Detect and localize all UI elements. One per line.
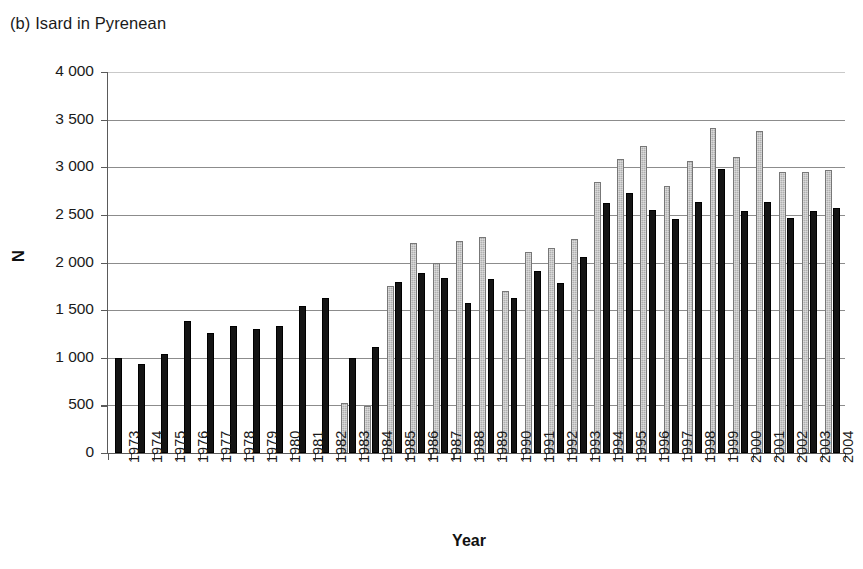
y-axis-tick-label: 500 xyxy=(0,395,100,413)
bar-gray xyxy=(456,241,463,453)
y-axis-tick-mark xyxy=(101,405,108,406)
x-axis-tick-mark xyxy=(108,453,109,460)
x-axis-tick-label: 2003 xyxy=(817,431,833,463)
y-axis-tick-label: 2 000 xyxy=(0,253,100,271)
x-axis-tick-label: 1994 xyxy=(610,431,626,463)
bar-gray xyxy=(571,239,578,453)
y-axis-tick-label: 1 500 xyxy=(0,300,100,318)
bar-black xyxy=(695,202,702,453)
x-axis-tick-label: 1975 xyxy=(172,431,188,463)
bar-gray xyxy=(433,263,440,454)
bar-gray xyxy=(825,170,832,453)
x-axis-tick-label: 1988 xyxy=(471,431,487,463)
y-axis-tick-label: 3 500 xyxy=(0,110,100,128)
bar-black xyxy=(488,279,495,453)
y-axis-tick-label: 0 xyxy=(0,443,100,461)
bar-gray xyxy=(733,157,740,453)
bar-black xyxy=(511,298,518,453)
x-axis-tick-label: 1977 xyxy=(218,431,234,463)
x-axis-tick-label: 1999 xyxy=(725,431,741,463)
x-axis-tick-label: 1998 xyxy=(702,431,718,463)
y-axis-tick-mark xyxy=(101,310,108,311)
bar-black xyxy=(764,202,771,453)
y-axis-tick-mark xyxy=(101,358,108,359)
bar-black xyxy=(395,282,402,453)
y-axis-tick-mark xyxy=(101,72,108,73)
bar-gray xyxy=(687,161,694,453)
bar-black xyxy=(718,169,725,453)
x-axis-tick-label: 1983 xyxy=(356,431,372,463)
x-axis-tick-label: 2000 xyxy=(748,431,764,463)
y-axis-tick-mark xyxy=(101,167,108,168)
bar-gray xyxy=(802,172,809,453)
bar-black xyxy=(741,211,748,453)
x-axis-tick-label: 1986 xyxy=(425,431,441,463)
bar-black xyxy=(418,273,425,453)
bar-gray xyxy=(640,146,647,453)
x-axis-tick-label: 1979 xyxy=(264,431,280,463)
bar-gray xyxy=(779,172,786,453)
y-axis-tick-label: 4 000 xyxy=(0,62,100,80)
bar-gray xyxy=(664,186,671,453)
bar-black xyxy=(626,193,633,453)
x-axis-tick-label: 1984 xyxy=(379,431,395,463)
bar-gray xyxy=(756,131,763,453)
y-axis-tick-mark xyxy=(101,263,108,264)
bar-group xyxy=(108,72,845,453)
x-axis-tick-label: 1976 xyxy=(195,431,211,463)
bar-black xyxy=(603,203,610,453)
x-axis-tick-label: 1990 xyxy=(518,431,534,463)
bar-black xyxy=(787,218,794,453)
y-axis-tick-label: 2 500 xyxy=(0,205,100,223)
y-axis-tick-label: 3 000 xyxy=(0,157,100,175)
x-axis-tick-label: 1974 xyxy=(149,431,165,463)
y-axis-tick-mark xyxy=(101,215,108,216)
bar-gray xyxy=(502,291,509,453)
y-axis-tick-labels: 05001 0001 5002 0002 5003 0003 5004 000 xyxy=(0,0,100,569)
bar-black xyxy=(833,208,840,453)
x-axis-tick-label: 1978 xyxy=(241,431,257,463)
bar-gray xyxy=(410,243,417,453)
bar-gray xyxy=(710,128,717,453)
bar-black xyxy=(810,211,817,453)
bar-gray xyxy=(525,252,532,453)
bar-black xyxy=(649,210,656,453)
x-axis-tick-label: 2002 xyxy=(794,431,810,463)
y-axis-tick-mark xyxy=(101,453,108,454)
bar-black xyxy=(672,219,679,453)
x-axis-tick-label: 1985 xyxy=(402,431,418,463)
x-axis-tick-label: 1989 xyxy=(494,431,510,463)
bar-black xyxy=(534,271,541,453)
y-axis-tick-mark xyxy=(101,120,108,121)
bar-gray xyxy=(479,237,486,453)
x-axis-tick-label: 1993 xyxy=(587,431,603,463)
bar-black xyxy=(557,283,564,454)
bar-black xyxy=(580,257,587,453)
bar-black xyxy=(441,278,448,453)
x-axis-tick-label: 1973 xyxy=(126,431,142,463)
bar-black xyxy=(115,358,122,453)
x-axis-tick-label: 1987 xyxy=(448,431,464,463)
x-axis-tick-label: 1982 xyxy=(333,431,349,463)
bar-gray xyxy=(617,159,624,453)
x-axis-tick-label: 1997 xyxy=(679,431,695,463)
x-axis-label: Year xyxy=(0,532,863,550)
x-axis-tick-label: 1991 xyxy=(541,431,557,463)
x-axis-tick-label: 1996 xyxy=(656,431,672,463)
plot-area xyxy=(108,72,845,453)
x-axis-tick-label: 1980 xyxy=(287,431,303,463)
bar-gray xyxy=(387,286,394,453)
x-axis-tick-label: 1981 xyxy=(310,431,326,463)
x-axis-tick-label: 1992 xyxy=(564,431,580,463)
bar-gray xyxy=(548,248,555,453)
x-axis-tick-label: 1995 xyxy=(633,431,649,463)
x-axis-tick-label: 2004 xyxy=(840,431,856,463)
chart-figure: (b) Isard in Pyrenean N 05001 0001 5002 … xyxy=(0,0,863,569)
y-axis-tick-label: 1 000 xyxy=(0,348,100,366)
x-axis-tick-label: 2001 xyxy=(771,431,787,463)
bar-gray xyxy=(594,182,601,453)
